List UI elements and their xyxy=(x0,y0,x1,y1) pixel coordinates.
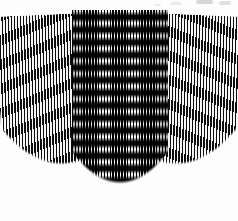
striped-sheet-center xyxy=(72,10,168,202)
sheet-edge-shading xyxy=(72,10,168,202)
image-caption: Moire interference pattern on overlappin… xyxy=(0,0,1,1)
moire-image-canvas: Moire interference pattern on overlappin… xyxy=(0,0,238,221)
scan-smudge-artifact xyxy=(196,0,213,4)
scan-smudge-artifact xyxy=(171,2,181,5)
scan-smudge-artifact xyxy=(155,4,161,6)
scan-smudge-artifact xyxy=(219,1,231,5)
